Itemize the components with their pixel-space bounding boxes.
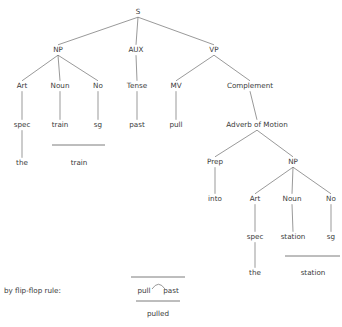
branch-Complement-to-AdvMotion — [250, 91, 257, 120]
node-pull: pull — [169, 120, 182, 129]
node-the1: the — [16, 158, 28, 167]
branch-S-to-VP — [138, 17, 214, 45]
branch-S-to-AUX — [136, 17, 138, 45]
branch-VP-to-MV — [176, 55, 214, 81]
node-Tense: Tense — [126, 81, 148, 90]
node-Prep: Prep — [207, 157, 223, 166]
node-sg2: sg — [327, 232, 335, 241]
branch-NP1-to-No1 — [58, 55, 98, 81]
branch-NP2-to-Noun2 — [292, 167, 293, 194]
branch-AdvMotion-to-NP2 — [257, 130, 293, 157]
node-sg1: sg — [94, 120, 102, 129]
flip-flop-result: pulled — [147, 309, 169, 318]
node-MV: MV — [170, 81, 181, 90]
flip-flop-right-term: past — [163, 286, 179, 295]
flip-flop-rule-label: by flip-flop rule: — [4, 286, 61, 295]
node-the2: the — [249, 268, 261, 277]
branch-NP1-to-Art1 — [22, 55, 58, 81]
node-Noun1: Noun — [51, 81, 70, 90]
node-Complement: Complement — [227, 81, 273, 90]
tree-diagram-page: by flip-flop rule:pullpastpulled SNPAUXV… — [0, 0, 342, 327]
branch-NP2-to-Art2 — [255, 167, 293, 194]
node-Art1: Art — [17, 81, 28, 90]
branch-NP1-to-Noun1 — [58, 55, 60, 81]
branch-VP-to-Complement — [214, 55, 250, 81]
flip-flop-left-term: pull — [137, 286, 150, 295]
node-Noun2: Noun — [283, 194, 302, 203]
node-into: into — [208, 194, 222, 203]
node-spec2: spec — [247, 232, 264, 241]
node-past: past — [129, 120, 145, 129]
branch-S-to-NP1 — [58, 17, 138, 45]
node-stationLex: station — [301, 268, 326, 277]
branch-Noun2-to-station — [292, 204, 293, 232]
node-AUX: AUX — [128, 45, 143, 54]
node-train: train — [52, 120, 69, 129]
tree-node-labels: SNPAUXVPArtNounNoTenseMVComplementspectr… — [14, 7, 336, 277]
tree-branches — [22, 17, 331, 268]
branch-AdvMotion-to-Prep — [215, 130, 257, 157]
node-No2: No — [326, 194, 336, 203]
node-NP1: NP — [53, 45, 63, 54]
node-VP: VP — [209, 45, 219, 54]
node-No1: No — [93, 81, 103, 90]
syntax-tree-svg: by flip-flop rule:pullpastpulled SNPAUXV… — [0, 0, 342, 327]
branch-AUX-to-Tense — [136, 55, 137, 81]
node-AdvMotion: Adverb of Motion — [226, 120, 287, 129]
node-NP2: NP — [288, 157, 298, 166]
flip-flop-rule-group: by flip-flop rule:pullpastpulled — [4, 277, 185, 318]
node-Art2: Art — [250, 194, 261, 203]
node-station: station — [281, 232, 306, 241]
node-trainLex: train — [71, 158, 88, 167]
branch-NP2-to-No2 — [293, 167, 331, 194]
node-spec1: spec — [14, 120, 31, 129]
node-S: S — [136, 7, 141, 16]
